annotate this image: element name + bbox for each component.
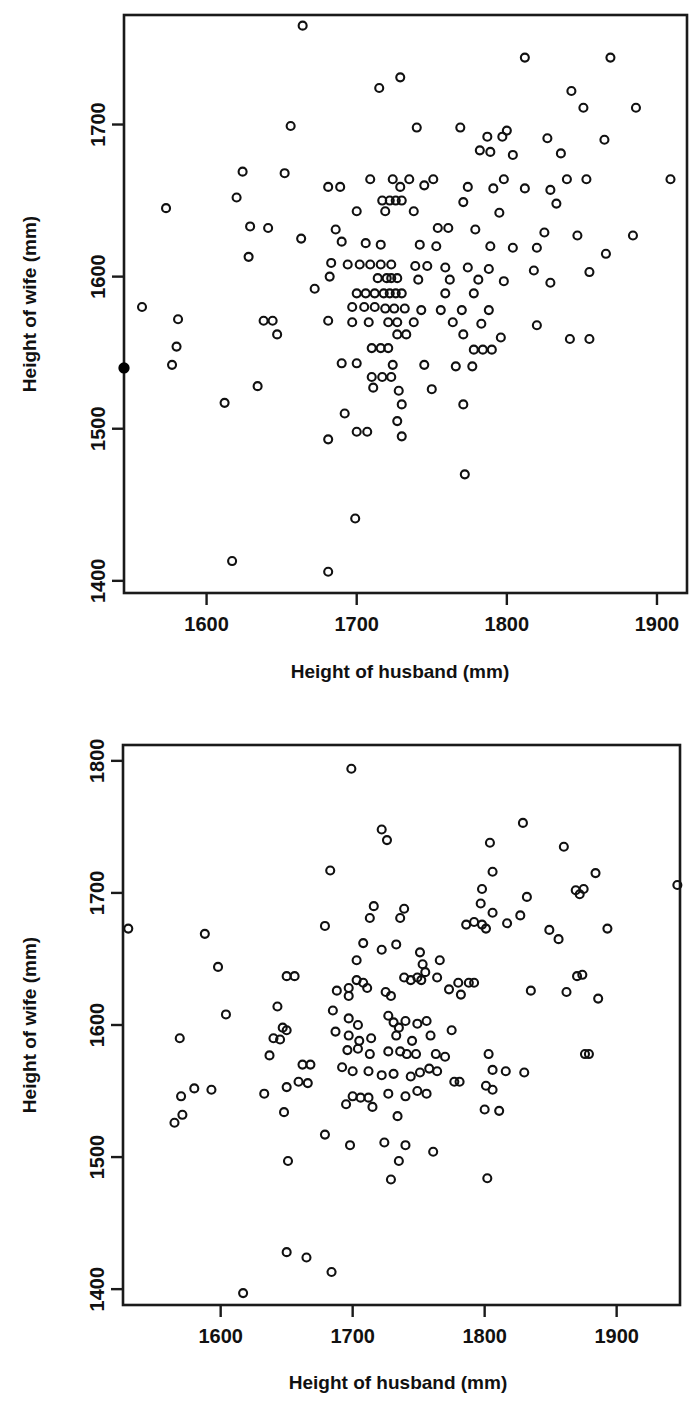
- data-point: [348, 303, 356, 311]
- data-point: [485, 306, 493, 314]
- data-point: [413, 1020, 421, 1028]
- data-point: [533, 244, 541, 252]
- data-point: [540, 229, 548, 237]
- data-point: [470, 346, 478, 354]
- data-point: [344, 260, 352, 268]
- y-tick-label: 1700: [87, 102, 109, 147]
- data-point: [359, 939, 367, 947]
- data-point: [441, 289, 449, 297]
- data-point: [283, 972, 291, 980]
- x-tick-label: 1700: [330, 1325, 375, 1347]
- y-tick-label: 1700: [86, 871, 108, 916]
- data-point: [366, 1050, 374, 1058]
- data-point: [485, 265, 493, 273]
- data-point: [395, 1157, 403, 1165]
- data-point: [363, 428, 371, 436]
- data-point: [461, 470, 469, 478]
- x-axis-ticks-bottom: [221, 1305, 617, 1317]
- data-point: [341, 410, 349, 418]
- data-point: [429, 175, 437, 183]
- data-point: [420, 181, 428, 189]
- data-point: [448, 1026, 456, 1034]
- data-point: [520, 1069, 528, 1077]
- data-point: [421, 968, 429, 976]
- data-point: [429, 1148, 437, 1156]
- data-point: [420, 361, 428, 369]
- data-point: [354, 1021, 362, 1029]
- data-point: [311, 285, 319, 293]
- data-point: [353, 956, 361, 964]
- data-point: [173, 343, 181, 351]
- data-point: [398, 400, 406, 408]
- data-point: [594, 995, 602, 1003]
- y-tick-label: 1500: [87, 406, 109, 451]
- y-tick-label: 1500: [86, 1135, 108, 1180]
- data-point: [233, 194, 241, 202]
- data-point: [338, 238, 346, 246]
- data-point: [445, 985, 453, 993]
- data-point: [470, 289, 478, 297]
- y-tick-label: 1600: [87, 254, 109, 299]
- data-point: [666, 175, 674, 183]
- data-point: [360, 303, 368, 311]
- x-axis-title-top: Height of husband (mm): [291, 661, 509, 682]
- data-point: [342, 1100, 350, 1108]
- data-point: [519, 819, 527, 827]
- data-point: [283, 1083, 291, 1091]
- data-point: [543, 134, 551, 142]
- data-point: [483, 1174, 491, 1182]
- data-point: [174, 315, 182, 323]
- data-point: [456, 124, 464, 132]
- data-point: [546, 186, 554, 194]
- data-point: [573, 232, 581, 240]
- data-point: [488, 346, 496, 354]
- data-point: [489, 184, 497, 192]
- data-point: [214, 963, 222, 971]
- data-point: [387, 1176, 395, 1184]
- data-point: [168, 361, 176, 369]
- data-point: [380, 1139, 388, 1147]
- data-point: [563, 175, 571, 183]
- data-point: [390, 305, 398, 313]
- data-point: [190, 1084, 198, 1092]
- data-point: [560, 843, 568, 851]
- x-tick-label: 1900: [635, 613, 680, 635]
- data-point: [471, 225, 479, 233]
- data-point: [264, 224, 272, 232]
- data-point: [477, 320, 485, 328]
- data-point: [354, 1045, 362, 1053]
- data-point: [375, 84, 383, 92]
- scatterplot-top: 1400150016001700 1600170018001900 Height…: [0, 0, 696, 713]
- data-point: [384, 1047, 392, 1055]
- data-point: [326, 273, 334, 281]
- data-point: [366, 914, 374, 922]
- data-point: [459, 330, 467, 338]
- data-point: [446, 276, 454, 284]
- data-point: [462, 921, 470, 929]
- data-point: [260, 317, 268, 325]
- data-point: [221, 399, 229, 407]
- data-point: [353, 428, 361, 436]
- data-point: [299, 1061, 307, 1069]
- data-points-bottom: [124, 765, 681, 1297]
- data-point: [333, 987, 341, 995]
- data-point: [362, 289, 370, 297]
- data-point: [239, 168, 247, 176]
- data-point: [489, 909, 497, 917]
- data-point: [368, 373, 376, 381]
- data-point: [321, 1131, 329, 1139]
- data-point: [603, 925, 611, 933]
- data-point: [495, 1107, 503, 1115]
- data-point: [527, 987, 535, 995]
- data-point: [602, 250, 610, 258]
- y-axis-tick-labels-top: 1400150016001700: [87, 102, 109, 603]
- data-point: [332, 1028, 340, 1036]
- data-point: [365, 1094, 373, 1102]
- data-point: [428, 385, 436, 393]
- data-point: [405, 175, 413, 183]
- data-point: [324, 183, 332, 191]
- data-point: [393, 417, 401, 425]
- data-point: [606, 54, 614, 62]
- highlight-points-top: [119, 363, 128, 372]
- data-point: [459, 198, 467, 206]
